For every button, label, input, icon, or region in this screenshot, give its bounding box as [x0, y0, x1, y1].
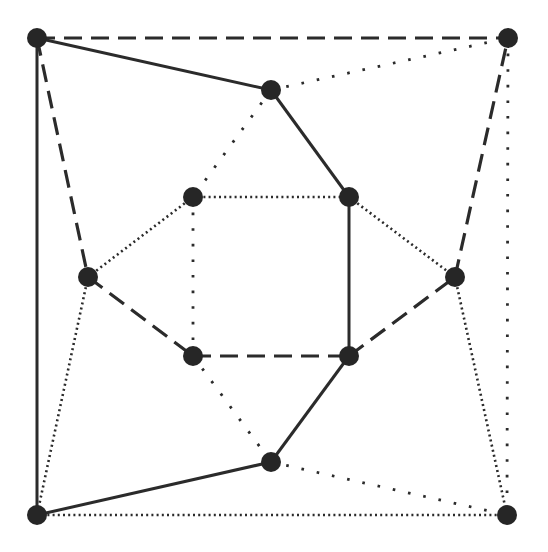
- edge-D-F-dotted-dense: [88, 197, 193, 277]
- node-L: [497, 505, 517, 525]
- edge-E-G-dotted-dense: [349, 197, 455, 277]
- edge-J-L-dotted-sparse: [271, 462, 507, 515]
- edge-H-J-dotted-sparse: [193, 356, 271, 462]
- edge-I-G-dashed: [349, 277, 455, 356]
- graph-diagram: [0, 0, 548, 552]
- edge-B-L-dotted-sparse: [507, 38, 508, 515]
- edge-A-C-solid: [37, 38, 271, 90]
- node-D: [183, 187, 203, 207]
- node-layer: [27, 28, 518, 525]
- node-E: [339, 187, 359, 207]
- node-A: [27, 28, 47, 48]
- node-F: [78, 267, 98, 287]
- node-K: [27, 505, 47, 525]
- edge-C-D-dotted-sparse: [193, 90, 271, 197]
- edge-G-L-dotted-dense: [455, 277, 507, 515]
- edge-C-E-solid: [271, 90, 349, 197]
- node-I: [339, 346, 359, 366]
- edge-A-F-dashed: [37, 38, 88, 277]
- node-C: [261, 80, 281, 100]
- edge-G-B-dashed: [455, 38, 508, 277]
- node-B: [498, 28, 518, 48]
- edge-layer: [37, 38, 508, 515]
- node-J: [261, 452, 281, 472]
- edge-C-B-dotted-sparse: [271, 38, 508, 90]
- edge-J-K-solid: [37, 462, 271, 515]
- edge-I-J-solid: [271, 356, 349, 462]
- node-G: [445, 267, 465, 287]
- edge-F-K-dotted-dense: [37, 277, 88, 515]
- edge-F-H-dashed: [88, 277, 193, 356]
- node-H: [183, 346, 203, 366]
